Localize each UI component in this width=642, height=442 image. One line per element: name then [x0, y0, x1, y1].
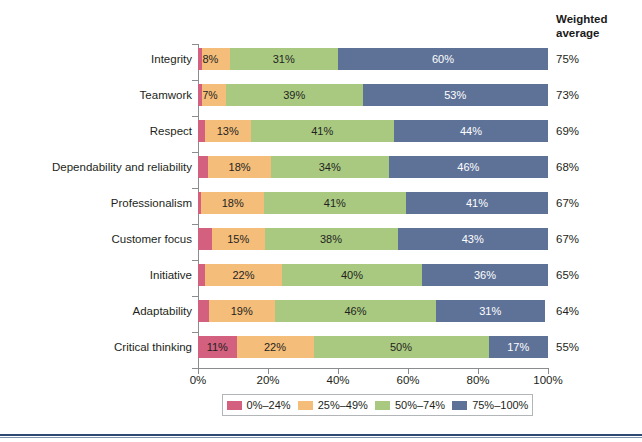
bar-segment[interactable]: 43%	[398, 228, 549, 250]
weighted-average-value: 67%	[556, 228, 604, 250]
bar-segment[interactable]: 19%	[209, 300, 276, 322]
bar-segment[interactable]	[198, 300, 209, 322]
category-label: Professionalism	[0, 192, 192, 214]
bar-segment[interactable]: 41%	[264, 192, 406, 214]
chart-row: Professionalism1%18%41%41%67%	[198, 192, 548, 214]
legend-label: 50%–74%	[395, 399, 445, 411]
category-label: Initiative	[0, 264, 192, 286]
weighted-average-header-line2: average	[556, 26, 636, 40]
chart-row: Critical thinking11%22%50%17%55%	[198, 336, 548, 358]
bar-segment[interactable]: 36%	[422, 264, 548, 286]
bar-segment[interactable]: 18%	[208, 156, 270, 178]
y-axis-tick	[192, 80, 198, 81]
legend-item[interactable]: 25%–49%	[298, 399, 368, 411]
legend-label: 25%–49%	[318, 399, 368, 411]
legend-label: 75%–100%	[472, 399, 528, 411]
y-axis-tick	[192, 296, 198, 297]
bar-segment[interactable]	[198, 120, 205, 142]
y-axis-tick	[192, 152, 198, 153]
bar-segment[interactable]: 41%	[406, 192, 548, 214]
weighted-average-header: Weighted average	[556, 12, 636, 40]
bar-segment[interactable]: 17%	[489, 336, 549, 358]
category-label: Adaptability	[0, 300, 192, 322]
legend-swatch	[298, 401, 313, 410]
bar-segment[interactable]: 34%	[271, 156, 389, 178]
weighted-average-value: 65%	[556, 264, 604, 286]
weighted-average-value: 64%	[556, 300, 604, 322]
bar-segment[interactable]: 53%	[363, 84, 549, 106]
weighted-average-value: 73%	[556, 84, 604, 106]
bar-segment[interactable]: 15%	[212, 228, 265, 250]
bar-segment[interactable]: 18%	[201, 192, 263, 214]
weighted-average-value: 55%	[556, 336, 604, 358]
stacked-bar[interactable]: 7%39%53%	[198, 84, 548, 106]
legend-swatch	[452, 401, 467, 410]
x-axis-tick-label: 0%	[190, 374, 207, 386]
category-label: Integrity	[0, 48, 192, 70]
y-axis-tick	[192, 332, 198, 333]
bar-segment[interactable]: 60%	[338, 48, 548, 70]
bar-segment[interactable]: 44%	[394, 120, 548, 142]
stacked-bar[interactable]: 15%38%43%	[198, 228, 548, 250]
chart-row: Integrity1%8%31%60%75%	[198, 48, 548, 70]
bar-segment[interactable]	[198, 228, 212, 250]
bar-segment[interactable]: 46%	[275, 300, 436, 322]
plot-area: Integrity1%8%31%60%75%Teamwork1%7%39%53%…	[198, 44, 548, 366]
y-axis-tick	[192, 188, 198, 189]
stacked-bar[interactable]: 22%40%36%	[198, 264, 548, 286]
footer-rule	[0, 434, 642, 436]
bar-segment[interactable]	[198, 156, 208, 178]
bar-segment[interactable]: 22%	[237, 336, 314, 358]
bar-segment[interactable]: 31%	[436, 300, 545, 322]
legend-item[interactable]: 50%–74%	[375, 399, 445, 411]
category-label: Respect	[0, 120, 192, 142]
stacked-bar[interactable]: 19%46%31%	[198, 300, 548, 322]
chart-row: Dependability and reliability3%18%34%46%…	[198, 156, 548, 178]
weighted-average-header-line1: Weighted	[556, 12, 636, 26]
bar-segment[interactable]: 40%	[282, 264, 422, 286]
x-axis-tick-label: 80%	[466, 374, 489, 386]
legend-item[interactable]: 0%–24%	[227, 399, 291, 411]
category-label: Teamwork	[0, 84, 192, 106]
stacked-bar[interactable]: 18%34%46%	[198, 156, 548, 178]
stacked-bar[interactable]: 13%41%44%	[198, 120, 548, 142]
bar-segment[interactable]	[198, 264, 205, 286]
y-axis-tick	[192, 224, 198, 225]
weighted-average-value: 67%	[556, 192, 604, 214]
chart-legend: 0%–24%25%–49%50%–74%75%–100%	[222, 394, 533, 416]
chart-row: Customer focus4%15%38%43%67%	[198, 228, 548, 250]
category-label: Dependability and reliability	[0, 156, 192, 178]
category-label: Customer focus	[0, 228, 192, 250]
x-axis-tick-label: 60%	[396, 374, 419, 386]
bar-segment[interactable]: 39%	[226, 84, 363, 106]
stacked-bar[interactable]: 8%31%60%	[198, 48, 548, 70]
bar-segment[interactable]: 41%	[251, 120, 395, 142]
bar-segment[interactable]: 13%	[205, 120, 251, 142]
legend-item[interactable]: 75%–100%	[452, 399, 528, 411]
stacked-bar[interactable]: 11%22%50%17%	[198, 336, 548, 358]
bar-segment[interactable]: 50%	[314, 336, 489, 358]
bar-segment[interactable]: 22%	[205, 264, 282, 286]
stacked-bar-chart: Weighted average Integrity1%8%31%60%75%T…	[0, 0, 642, 442]
weighted-average-value: 75%	[556, 48, 604, 70]
x-axis-tick-label: 40%	[326, 374, 349, 386]
legend-swatch	[227, 401, 242, 410]
bar-segment[interactable]: 8%	[202, 48, 230, 70]
x-axis-tick-label: 20%	[256, 374, 279, 386]
bar-segment[interactable]: 31%	[230, 48, 339, 70]
bar-segment[interactable]: 46%	[389, 156, 548, 178]
y-axis-tick	[192, 44, 198, 45]
category-label: Critical thinking	[0, 336, 192, 358]
legend-label: 0%–24%	[247, 399, 291, 411]
bar-segment[interactable]: 7%	[202, 84, 227, 106]
y-axis-tick	[192, 116, 198, 117]
bar-segment[interactable]: 38%	[265, 228, 398, 250]
chart-row: Initiative2%22%40%36%65%	[198, 264, 548, 286]
x-axis-tick-label: 100%	[533, 374, 562, 386]
bar-segment[interactable]: 11%	[198, 336, 237, 358]
chart-row: Adaptability3%19%46%31%64%	[198, 300, 548, 322]
x-axis-line	[198, 368, 549, 369]
chart-row: Respect2%13%41%44%69%	[198, 120, 548, 142]
chart-row: Teamwork1%7%39%53%73%	[198, 84, 548, 106]
stacked-bar[interactable]: 18%41%41%	[198, 192, 548, 214]
